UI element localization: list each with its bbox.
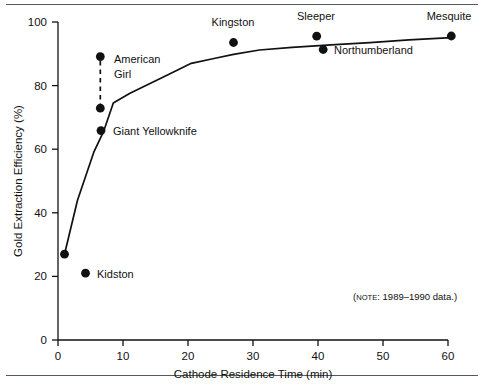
label-northumberland: Northumberland [334,44,413,56]
x-tick-group [58,340,448,346]
data-point-giant-yellowknife [97,126,106,135]
label-mesquite: Mesquite [427,10,472,22]
data-point-kidston [81,269,90,278]
x-tick-label-10: 10 [117,350,130,362]
x-tick-label-30: 30 [247,350,260,362]
note-annotation: (NOTE: 1989–1990 data.) [353,291,457,302]
y-tick-label-20: 20 [34,270,47,282]
data-point-northumberland [319,45,328,54]
y-tick-label-80: 80 [34,80,47,92]
x-axis-title: Cathode Residence Time (min) [174,368,333,380]
label-sleeper: Sleeper [297,10,335,22]
note-smallcaps-word: NOTE [356,293,377,302]
x-tick-label-group: 0 10 20 30 40 50 60 [55,350,455,362]
y-tick-label-100: 100 [28,16,47,28]
label-american-girl-line2: Girl [114,68,131,80]
data-point-mesquite [447,32,456,41]
y-tick-label-group: 100 80 60 40 20 0 [28,16,47,346]
note-rest: : 1989–1990 data.) [377,291,457,302]
label-giant-yellowknife: Giant Yellowknife [113,125,197,137]
y-tick-label-60: 60 [34,143,47,155]
y-tick-label-40: 40 [34,207,47,219]
data-point-kingston [229,38,238,47]
data-point-labels: American Girl Giant Yellowknife Kingston… [97,10,471,280]
label-kidston: Kidston [97,268,134,280]
chart-figure: 100 80 60 40 20 0 0 10 20 30 40 50 60 [0,0,484,384]
x-tick-label-0: 0 [55,350,61,362]
x-tick-label-60: 60 [442,350,455,362]
data-point-sleeper [312,32,321,41]
label-american-girl-line1: American [114,53,160,65]
scatter-plot-canvas: 100 80 60 40 20 0 0 10 20 30 40 50 60 [0,0,484,384]
label-kingston: Kingston [212,16,255,28]
x-tick-label-20: 20 [182,350,195,362]
y-tick-group [52,22,58,340]
y-axis-title: Gold Extraction Efficiency (%) [12,105,24,257]
y-tick-label-0: 0 [41,334,47,346]
x-tick-label-50: 50 [377,350,390,362]
data-point-american-girl-low [96,104,105,113]
data-point-american-girl-high [96,52,105,61]
data-point-curve-start [60,250,69,259]
x-tick-label-40: 40 [312,350,325,362]
